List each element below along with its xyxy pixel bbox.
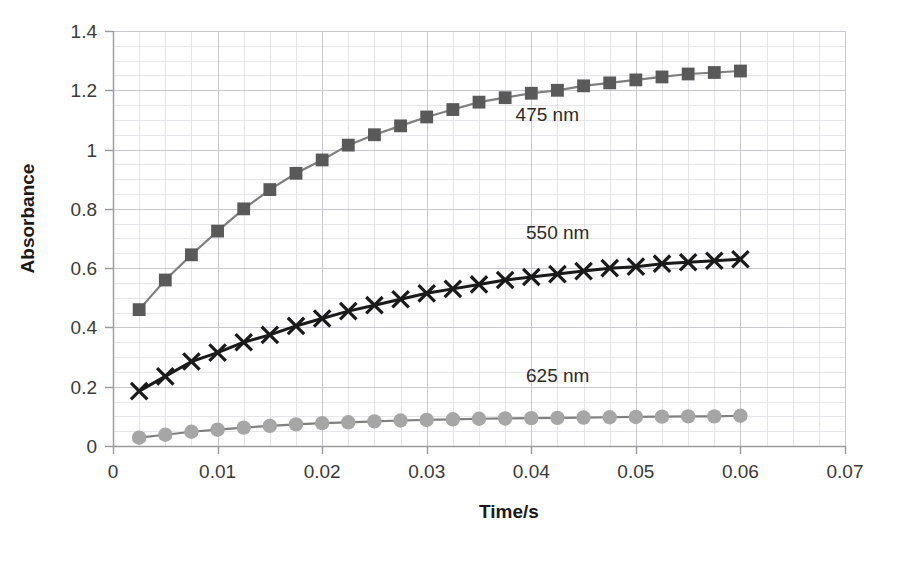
data-point-marker: [341, 415, 355, 429]
data-point-marker: [708, 66, 721, 79]
data-point-marker: [237, 202, 250, 215]
data-point-marker: [472, 412, 486, 426]
data-point-marker: [524, 411, 538, 425]
data-point-marker: [473, 96, 486, 109]
page-footer-cutoff: [0, 534, 898, 562]
y-tick-label: 0.6: [71, 258, 97, 279]
data-point-marker: [158, 428, 172, 442]
data-point-marker: [367, 414, 381, 428]
data-point-marker: [550, 411, 564, 425]
data-point-marker: [577, 79, 590, 92]
data-point-marker: [446, 412, 460, 426]
y-tick-label: 0.4: [71, 317, 98, 338]
y-axis-title: Absorbance: [17, 164, 38, 274]
x-tick-label: 0.04: [513, 461, 550, 482]
data-point-marker: [342, 139, 355, 152]
data-point-marker: [393, 413, 407, 427]
data-point-marker: [525, 87, 538, 100]
absorbance-vs-time-chart: 00.010.020.030.040.050.060.0700.20.40.60…: [0, 0, 898, 562]
x-tick-label: 0.07: [827, 461, 864, 482]
y-tick-label: 1.2: [71, 80, 97, 101]
data-point-marker: [289, 417, 303, 431]
x-tick-label: 0.06: [722, 461, 759, 482]
data-point-marker: [603, 410, 617, 424]
x-axis-title: Time/s: [479, 501, 539, 522]
data-point-marker: [734, 65, 747, 78]
data-point-marker: [551, 84, 564, 97]
data-point-marker: [132, 431, 146, 445]
data-point-marker: [211, 225, 224, 238]
data-point-marker: [368, 128, 381, 141]
data-point-marker: [733, 409, 747, 423]
data-point-marker: [707, 409, 721, 423]
data-point-marker: [185, 248, 198, 261]
data-point-marker: [629, 410, 643, 424]
data-point-marker: [656, 71, 669, 84]
series-annotation-label: 475 nm: [516, 104, 579, 125]
x-tick-label: 0.02: [304, 461, 341, 482]
x-tick-label: 0: [108, 461, 119, 482]
data-point-marker: [576, 410, 590, 424]
data-point-marker: [210, 422, 224, 436]
chart-figure: 00.010.020.030.040.050.060.0700.20.40.60…: [0, 0, 898, 562]
data-point-marker: [420, 111, 433, 124]
y-tick-label: 0.8: [71, 199, 97, 220]
data-point-marker: [184, 425, 198, 439]
chart-background: [0, 0, 898, 562]
y-tick-label: 1.4: [71, 21, 98, 42]
data-point-marker: [133, 303, 146, 316]
data-point-marker: [315, 416, 329, 430]
series-annotation-label: 625 nm: [526, 365, 589, 386]
data-point-marker: [394, 119, 407, 132]
series-annotation-label: 550 nm: [526, 222, 589, 243]
data-point-marker: [603, 76, 616, 89]
data-point-marker: [290, 167, 303, 180]
y-tick-label: 0.2: [71, 377, 97, 398]
x-tick-label: 0.05: [617, 461, 654, 482]
y-tick-label: 1: [86, 140, 97, 161]
data-point-marker: [682, 68, 695, 81]
data-point-marker: [629, 74, 642, 87]
x-tick-label: 0.03: [408, 461, 445, 482]
data-point-marker: [263, 183, 276, 196]
data-point-marker: [316, 154, 329, 167]
data-point-marker: [263, 419, 277, 433]
data-point-marker: [498, 411, 512, 425]
data-point-marker: [420, 413, 434, 427]
data-point-marker: [159, 274, 172, 287]
data-point-marker: [446, 103, 459, 116]
data-point-marker: [237, 420, 251, 434]
data-point-marker: [655, 409, 669, 423]
data-point-marker: [681, 409, 695, 423]
y-tick-label: 0: [86, 436, 97, 457]
data-point-marker: [499, 91, 512, 104]
x-tick-label: 0.01: [199, 461, 236, 482]
